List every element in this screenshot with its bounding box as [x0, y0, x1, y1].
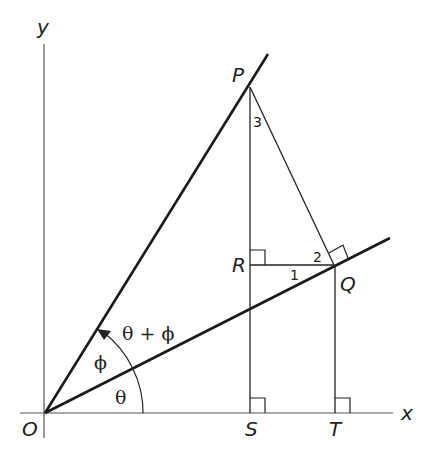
point-t-label: T	[329, 417, 343, 441]
right-angle-q	[329, 245, 348, 258]
point-r-label: R	[232, 253, 246, 277]
ray-oq	[45, 238, 390, 413]
point-q-label: Q	[340, 272, 356, 296]
theta-arc	[133, 369, 143, 413]
point-o-label: O	[22, 417, 38, 441]
angle-3-label: 3	[253, 114, 262, 130]
x-axis-label: x	[400, 401, 413, 425]
y-axis-label: y	[36, 15, 50, 39]
right-angle-r	[250, 250, 265, 265]
point-p-label: P	[232, 63, 245, 87]
theta-label: θ	[115, 386, 126, 408]
right-angle-t	[335, 398, 350, 413]
right-angle-s	[250, 398, 265, 413]
segment-pq	[250, 87, 334, 265]
angle-1-label: 1	[290, 267, 299, 283]
arrow-head-icon	[97, 329, 111, 340]
phi-label: ϕ	[94, 351, 107, 373]
theta-plus-phi-label: θ + ϕ	[122, 322, 174, 344]
point-s-label: S	[245, 417, 258, 441]
ray-op	[45, 54, 268, 413]
angle-2-label: 2	[313, 249, 322, 265]
angle-addition-diagram: y x O P Q R S T 3 2 1 θ ϕ θ + ϕ	[0, 0, 432, 466]
